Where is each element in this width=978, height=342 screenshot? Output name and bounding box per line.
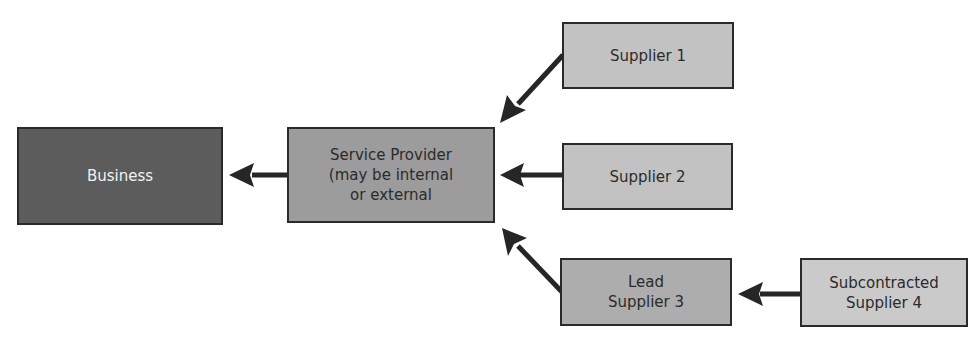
edge-supplier3-to-provider	[502, 228, 562, 292]
edge-provider-to-business	[229, 163, 287, 187]
edge-supplier4-to-supplier3	[738, 282, 800, 306]
arrowhead-icon	[738, 282, 763, 306]
arrowhead-icon	[500, 95, 526, 123]
arrowhead-icon	[500, 163, 524, 187]
node-supplier-2: Supplier 2	[562, 143, 733, 210]
edge-supplier1-to-provider	[500, 55, 563, 123]
node-label: Business	[87, 166, 153, 186]
node-label: Supplier 1	[610, 46, 686, 66]
edge-supplier2-to-provider	[500, 163, 562, 187]
node-subcontracted-supplier-4: Subcontracted Supplier 4	[800, 258, 968, 327]
node-label: Subcontracted Supplier 4	[829, 273, 939, 313]
node-supplier-1: Supplier 1	[562, 22, 734, 89]
node-lead-supplier-3: Lead Supplier 3	[560, 258, 732, 326]
node-label: Supplier 2	[609, 167, 685, 187]
arrowhead-icon	[502, 228, 527, 256]
arrowhead-icon	[229, 163, 254, 187]
node-business: Business	[17, 127, 223, 225]
node-label: Service Provider (may be internal or ext…	[329, 145, 453, 205]
node-label: Lead Supplier 3	[608, 272, 684, 312]
node-service-provider: Service Provider (may be internal or ext…	[287, 127, 495, 223]
